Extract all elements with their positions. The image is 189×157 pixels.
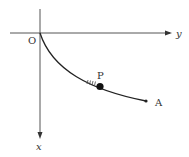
x-axis-label: x (36, 141, 42, 152)
origin-label: O (28, 35, 36, 46)
horizontal-axis-arrow-icon (165, 31, 172, 36)
endpoint-a-dot (144, 99, 147, 102)
curve-track (40, 33, 146, 101)
y-axis-label: y (175, 28, 182, 39)
vertical-axis-arrow-icon (38, 132, 43, 139)
particle-p (96, 83, 103, 90)
diagram-canvas: O y x P A (0, 0, 189, 157)
particle-label: P (97, 70, 104, 81)
endpoint-label: A (154, 97, 163, 108)
